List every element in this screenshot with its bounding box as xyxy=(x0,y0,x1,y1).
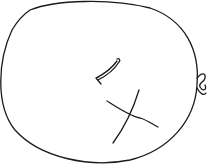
sketch-canvas xyxy=(0,0,208,168)
cross-mark-icon xyxy=(107,90,158,143)
highlight-arrow-icon xyxy=(96,59,120,84)
knot-icon xyxy=(197,74,206,95)
